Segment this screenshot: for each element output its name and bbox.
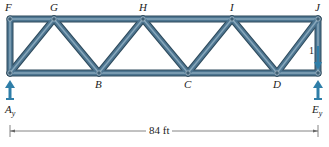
truss-member-highlight: [143, 19, 188, 73]
reaction-arrow-up-icon: [5, 80, 15, 100]
truss-member-highlight: [54, 19, 99, 73]
truss-members: [10, 19, 318, 73]
node-label-f: F: [5, 2, 12, 13]
joint-pin-f: [8, 17, 12, 21]
joint-pin-b: [97, 71, 101, 75]
reaction-label-ay: Ay: [5, 104, 15, 118]
dimension-label: 84 ft: [146, 125, 172, 136]
node-label-h: H: [139, 2, 147, 13]
node-label-i: I: [230, 2, 234, 13]
joint-pin-g: [52, 17, 56, 21]
node-label-j: J: [315, 2, 320, 13]
joint-pin-e: [316, 71, 320, 75]
joint-pin-d: [275, 71, 279, 75]
joint-pin-i: [230, 17, 234, 21]
reaction-arrow-up-icon: [313, 80, 323, 100]
node-label-d: D: [273, 79, 281, 90]
truss-member-highlight: [188, 19, 232, 73]
truss-member-highlight: [10, 19, 54, 73]
truss-member-highlight: [99, 19, 143, 73]
reaction-label-ey: Ey: [312, 104, 322, 118]
reaction-label-ey-sub: y: [319, 109, 323, 118]
truss-member-highlight: [232, 19, 277, 73]
reaction-label-ey-main: E: [312, 103, 319, 115]
reaction-label-ay-main: A: [5, 103, 12, 115]
node-label-g: G: [50, 2, 58, 13]
node-label-c: C: [184, 79, 191, 90]
truss-diagram: F G H I J B C D 1 Ay Ey 84 ft: [0, 0, 329, 147]
reaction-label-ay-sub: y: [12, 109, 16, 118]
node-label-b: B: [95, 79, 102, 90]
joint-pin-c: [186, 71, 190, 75]
joint-pin-h: [141, 17, 145, 21]
member-label-je: 1: [309, 46, 314, 56]
joint-pin-a: [8, 71, 12, 75]
joint-pin-j: [316, 17, 320, 21]
